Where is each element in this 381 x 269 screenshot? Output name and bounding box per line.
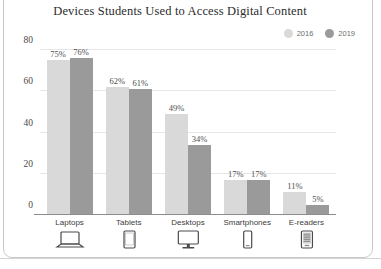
bar-chart: Devices Students Used to Access Digital … — [0, 0, 381, 269]
bar-value-label: 5% — [312, 194, 323, 204]
y-axis-tick-label: 40 — [24, 118, 34, 128]
legend-label-2019: 2019 — [338, 29, 355, 38]
bar[interactable] — [247, 180, 270, 215]
bar-wrap: 61% — [129, 50, 152, 215]
bar-wrap: 49% — [165, 50, 188, 215]
category-axis: LaptopsTabletsDesktopsSmartphonesE-reade… — [40, 218, 336, 266]
bar-wrap: 5% — [306, 50, 329, 215]
bar[interactable] — [224, 180, 247, 215]
bar-wrap: 17% — [224, 50, 247, 215]
bar-wrap: 34% — [188, 50, 211, 215]
bar-group: 17%17% — [218, 50, 277, 215]
category-label: Smartphones — [223, 218, 271, 227]
legend-swatch-2016 — [284, 29, 293, 38]
bar-value-label: 76% — [73, 47, 89, 57]
category-smartphones: Smartphones — [223, 218, 271, 250]
bar[interactable] — [188, 145, 211, 215]
legend-item-2019[interactable]: 2019 — [325, 29, 355, 38]
category-desktops: Desktops — [171, 218, 204, 250]
legend-item-2016[interactable]: 2016 — [284, 29, 314, 38]
category-label: Tablets — [116, 218, 141, 227]
bar-value-label: 17% — [228, 169, 244, 179]
bar-wrap: 75% — [47, 50, 70, 215]
chart-title: Devices Students Used to Access Digital … — [0, 4, 360, 19]
bar[interactable] — [70, 58, 93, 215]
bar-value-label: 49% — [169, 103, 185, 113]
bar[interactable] — [283, 192, 306, 215]
smartphone-icon — [232, 230, 262, 250]
y-axis-tick-label: 20 — [24, 159, 34, 169]
legend-label-2016: 2016 — [297, 29, 314, 38]
plot-area: 020406080 75%76%62%61%49%34%17%17%11%5% — [40, 50, 336, 215]
bar[interactable] — [47, 60, 70, 215]
category-e-readers: E-readers — [289, 218, 324, 250]
ereader-icon — [291, 230, 321, 250]
bar[interactable] — [106, 87, 129, 215]
category-laptops: Laptops — [55, 218, 85, 250]
bar-wrap: 17% — [247, 50, 270, 215]
laptop-icon — [55, 230, 85, 250]
bar-value-label: 61% — [132, 78, 148, 88]
bar[interactable] — [129, 89, 152, 215]
bar-value-label: 11% — [287, 181, 302, 191]
bar-wrap: 62% — [106, 50, 129, 215]
category-label: Laptops — [55, 218, 83, 227]
x-axis-line — [34, 214, 336, 215]
bar-group: 75%76% — [40, 50, 99, 215]
bar-value-label: 62% — [109, 76, 125, 86]
legend-swatch-2019 — [325, 29, 334, 38]
bar-value-label: 75% — [50, 49, 66, 59]
bar-group: 62%61% — [99, 50, 158, 215]
category-label: E-readers — [289, 218, 324, 227]
tablet-icon — [114, 230, 144, 250]
bar[interactable] — [165, 114, 188, 215]
bar-group: 11%5% — [277, 50, 336, 215]
bar-value-label: 17% — [251, 169, 267, 179]
y-axis-tick-label: 80 — [24, 35, 34, 45]
desktop-monitor-icon — [173, 230, 203, 250]
bar-group: 49%34% — [158, 50, 217, 215]
y-axis-tick-label: 60 — [24, 76, 34, 86]
category-tablets: Tablets — [114, 218, 144, 250]
category-label: Desktops — [171, 218, 204, 227]
chart-legend: 2016 2019 — [284, 29, 355, 38]
bar-wrap: 76% — [70, 50, 93, 215]
bar-value-label: 34% — [192, 134, 208, 144]
y-axis-tick-label: 0 — [28, 200, 33, 210]
bar-wrap: 11% — [283, 50, 306, 215]
